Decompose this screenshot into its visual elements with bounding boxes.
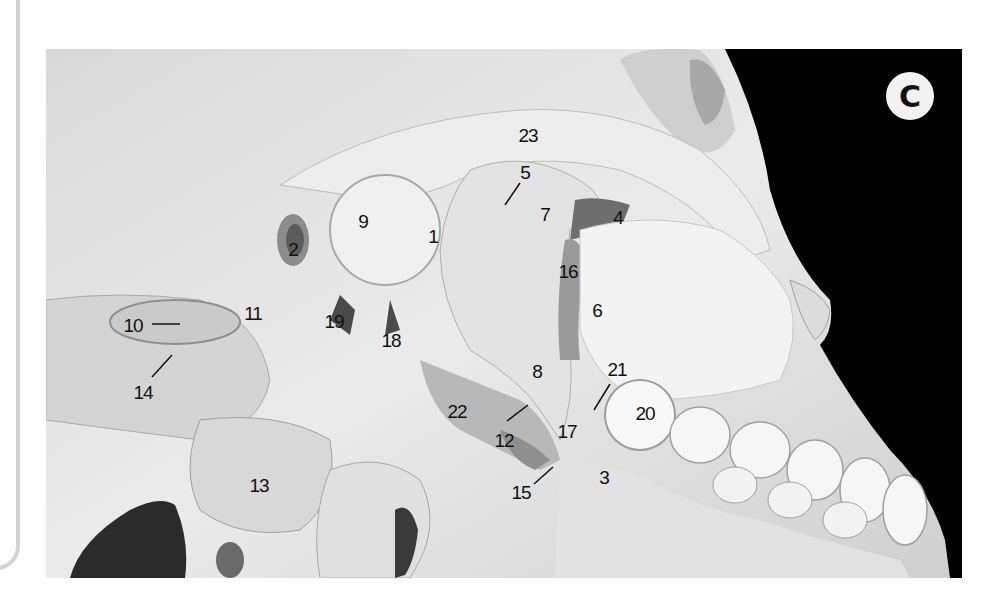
page-frame-border (0, 0, 20, 570)
anatomy-label-9: 9 (358, 212, 368, 231)
anatomy-label-2: 2 (288, 240, 298, 259)
anatomy-label-8: 8 (532, 362, 542, 381)
panel-letter-badge: C (886, 72, 934, 120)
skull-photograph (46, 49, 962, 578)
anatomy-label-6: 6 (592, 301, 602, 320)
anatomy-label-1: 1 (428, 227, 438, 246)
anatomy-label-21: 21 (607, 360, 626, 379)
anatomy-label-12: 12 (494, 431, 513, 450)
anatomy-label-18: 18 (381, 331, 400, 350)
anatomy-label-5: 5 (520, 163, 530, 182)
anatomy-label-14: 14 (133, 383, 152, 402)
anatomy-label-20: 20 (635, 404, 654, 423)
anatomy-label-7: 7 (540, 205, 550, 224)
anatomy-label-22: 22 (447, 402, 466, 421)
anatomy-label-15: 15 (511, 483, 530, 502)
skull-illustration (46, 49, 962, 578)
anatomy-label-4: 4 (613, 208, 623, 227)
panel-letter: C (899, 79, 921, 114)
anatomy-label-19: 19 (324, 312, 343, 331)
anatomy-label-17: 17 (557, 422, 576, 441)
anatomy-label-16: 16 (558, 262, 577, 281)
anatomy-label-3: 3 (599, 468, 609, 487)
anatomy-label-10: 10 (123, 316, 142, 335)
anatomy-label-23: 23 (518, 126, 537, 145)
anatomy-label-11: 11 (244, 304, 262, 323)
anatomy-label-13: 13 (249, 476, 268, 495)
